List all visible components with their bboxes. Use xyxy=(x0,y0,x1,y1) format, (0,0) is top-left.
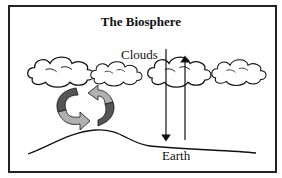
cloud-2 xyxy=(91,62,142,86)
earth-ground-line xyxy=(28,130,256,154)
clouds-label: Clouds xyxy=(121,47,158,63)
biosphere-illustration xyxy=(0,0,282,178)
cloud-4 xyxy=(212,60,266,86)
cloud-1 xyxy=(28,57,94,87)
earth-label: Earth xyxy=(162,148,190,164)
